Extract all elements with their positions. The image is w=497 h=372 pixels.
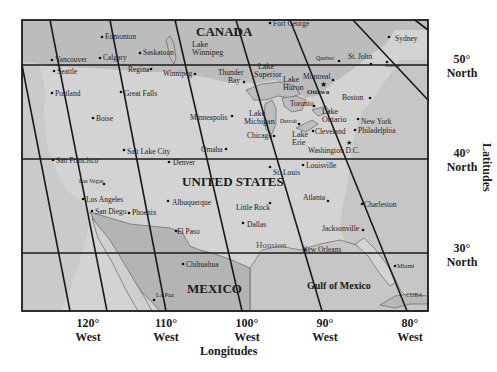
longitude-label-90: 90° West — [300, 316, 350, 344]
city-portland: Portland — [55, 89, 81, 98]
city-phoenix: Phoenix — [132, 208, 157, 217]
latitude-deg: 50° — [437, 52, 487, 66]
label-canada: CANADA — [196, 24, 253, 39]
city-charleston: Charleston — [364, 200, 397, 209]
longitude-dir: West — [300, 330, 350, 344]
label-houston: Houston — [256, 240, 287, 250]
label-lake-superior-2: Superior — [254, 70, 282, 79]
city-fort-george: Fort George — [273, 19, 310, 28]
label-lake-erie-2: Erie — [292, 138, 306, 147]
city-little-rock: Little Rock — [236, 203, 270, 212]
label-lake-michigan-2: Michigan — [244, 117, 275, 126]
city-st-louis: St. Louis — [273, 168, 300, 177]
label-lake-winnipeg-2: Winnipeg — [192, 48, 223, 57]
longitude-dir: West — [141, 330, 191, 344]
longitude-label-120: 120° West — [63, 316, 113, 344]
city-san-diego: San Diego — [95, 207, 127, 216]
label-cuba: CUBA — [406, 292, 423, 298]
city-boise: Boise — [96, 114, 114, 123]
city-ottawa: Ottawa — [307, 88, 330, 96]
city-st-john: St. John — [348, 52, 372, 61]
city-denver: Denver — [173, 158, 196, 167]
longitude-dir: West — [385, 330, 435, 344]
latitude-dir: North — [437, 255, 487, 269]
city-vancouver: Vancouver — [55, 55, 88, 64]
city-new-york: New York — [361, 117, 392, 126]
label-gulf-of-mexico: Gulf of Mexico — [307, 280, 371, 291]
label-mexico: MEXICO — [187, 281, 242, 296]
city-calgary: Calgary — [103, 53, 127, 62]
city-seattle: Seattle — [57, 67, 78, 76]
label-lake-ontario-2: Ontario — [322, 115, 346, 124]
city-atlanta: Atlanta — [303, 193, 326, 202]
longitude-deg: 110° — [141, 316, 191, 330]
city-la-paz: La Paz — [156, 291, 174, 298]
city-saskatoon: Saskatoon — [143, 48, 174, 57]
longitude-deg: 80° — [385, 316, 435, 330]
longitude-dir: West — [63, 330, 113, 344]
longitude-label-80: 80° West — [385, 316, 435, 344]
city-las-vegas: Las Vegas — [79, 178, 104, 184]
longitude-label-100: 100° West — [222, 316, 272, 344]
city-winnipeg: Winnipeg — [163, 69, 193, 78]
city-omaha: Omaha — [201, 145, 223, 154]
city-thunder-bay-2: Bay — [228, 76, 240, 85]
label-lake-huron-2: Huron — [283, 83, 303, 92]
latitude-label-50: 50° North — [437, 52, 487, 80]
city-quebec: Quebec — [316, 55, 335, 61]
city-philadelphia: Philadelphia — [358, 126, 396, 135]
city-regina: Regina — [128, 65, 150, 74]
city-miami: Miami — [397, 262, 415, 269]
longitude-dir: West — [222, 330, 272, 344]
city-washington-dc: Washington D.C. — [308, 146, 360, 155]
city-great-falls: Great Falls — [124, 89, 157, 98]
longitude-label-110: 110° West — [141, 316, 191, 344]
city-chihuahua: Chihuahua — [186, 260, 219, 269]
city-louisville: Louisville — [306, 161, 337, 170]
city-chicago: Chicago — [247, 131, 272, 140]
city-dallas: Dallas — [247, 220, 266, 229]
longitude-deg: 90° — [300, 316, 350, 330]
city-albuquerque: Albuquerque — [172, 198, 212, 207]
longitude-deg: 120° — [63, 316, 113, 330]
city-sydney: Sydney — [395, 34, 418, 43]
latitude-dir: North — [437, 66, 487, 80]
city-toronto: Toronto — [290, 99, 314, 108]
city-new-orleans: New Orleans — [302, 245, 341, 254]
city-jacksonville: Jacksonville — [322, 224, 360, 233]
map-container: CANADA UNITED STATES MEXICO Gulf of Mexi… — [0, 0, 497, 372]
city-san-francisco: San Francisco — [56, 156, 99, 165]
city-salt-lake-city: Salt Lake City — [127, 147, 171, 156]
latitudes-axis-title: Latitudes — [479, 143, 494, 192]
city-el-paso: El Paso — [177, 227, 200, 236]
city-detroit: Detroit — [280, 118, 297, 124]
latitude-deg: 30° — [437, 241, 487, 255]
city-halifax: Halifax — [385, 63, 400, 68]
city-cleveland: Cleveland — [315, 127, 346, 136]
city-boston: Boston — [342, 93, 364, 102]
city-edmonton: Edmonton — [105, 32, 136, 41]
longitude-deg: 100° — [222, 316, 272, 330]
latitude-label-30: 30° North — [437, 241, 487, 269]
city-los-angeles: Los Angeles — [86, 195, 123, 204]
city-minneapolis: Minneapolis — [190, 113, 228, 122]
longitudes-axis-title: Longitudes — [200, 344, 257, 359]
label-united-states: UNITED STATES — [182, 174, 284, 189]
